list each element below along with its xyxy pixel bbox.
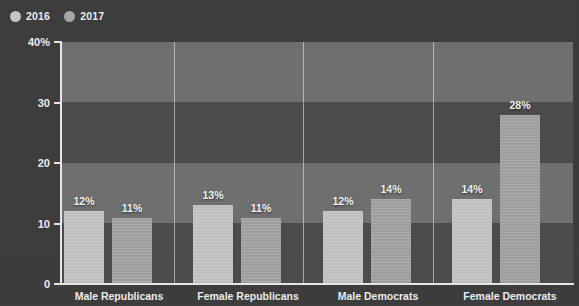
bar-value-label: 13% xyxy=(202,189,223,201)
bar-value-label: 12% xyxy=(73,195,94,207)
bar-2017-female-republicans[interactable]: 11% xyxy=(241,218,281,285)
legend-item-2016[interactable]: 2016 xyxy=(10,10,50,22)
category-separator-1 xyxy=(174,42,175,284)
x-axis-label-male-democrats: Male Democrats xyxy=(323,290,433,302)
bar-2016-female-republicans[interactable]: 13% xyxy=(193,205,233,284)
legend-swatch-2017-icon xyxy=(64,11,75,22)
bar-2017-male-democrats[interactable]: 14% xyxy=(371,199,411,284)
y-tick-30 xyxy=(54,102,60,104)
y-tick-40 xyxy=(54,41,60,43)
y-tick-10 xyxy=(54,223,60,225)
plot-area: 12% 11% 13% 11% 12% 14% 14% 28% xyxy=(61,42,573,284)
legend-swatch-2016-icon xyxy=(10,11,21,22)
y-axis-line xyxy=(60,41,62,285)
category-separator-3 xyxy=(433,42,434,284)
legend-label-2016: 2016 xyxy=(26,10,50,22)
bar-value-label: 11% xyxy=(251,202,271,214)
bar-2016-male-republicans[interactable]: 12% xyxy=(64,211,104,284)
y-axis-label-30: 30 xyxy=(14,97,50,109)
bar-value-label: 28% xyxy=(509,99,530,111)
bar-2017-female-democrats[interactable]: 28% xyxy=(500,115,540,284)
band-30-20 xyxy=(61,102,573,163)
bar-value-label: 11% xyxy=(122,202,142,214)
bar-2016-female-democrats[interactable]: 14% xyxy=(452,199,492,284)
y-axis-label-0: 0 xyxy=(14,278,50,290)
bar-value-label: 14% xyxy=(461,183,482,195)
legend-item-2017[interactable]: 2017 xyxy=(64,10,104,22)
bar-2016-male-democrats[interactable]: 12% xyxy=(323,211,363,284)
x-axis-line xyxy=(60,283,574,285)
legend-label-2017: 2017 xyxy=(80,10,104,22)
bar-chart: 2016 2017 12% 11% 13% 11% xyxy=(0,0,579,306)
band-40-30 xyxy=(61,42,573,102)
x-axis-label-female-republicans: Female Republicans xyxy=(193,290,303,302)
y-axis-label-10: 10 xyxy=(14,218,50,230)
category-separator-2 xyxy=(303,42,304,284)
bar-value-label: 12% xyxy=(332,195,353,207)
y-tick-20 xyxy=(54,162,60,164)
y-axis-label-20: 20 xyxy=(14,157,50,169)
y-axis-label-40: 40% xyxy=(14,36,50,48)
x-axis-label-male-republicans: Male Republicans xyxy=(64,290,174,302)
bar-value-label: 14% xyxy=(380,183,401,195)
band-20-10 xyxy=(61,163,573,223)
chart-legend: 2016 2017 xyxy=(10,6,104,26)
bar-2017-male-republicans[interactable]: 11% xyxy=(112,218,152,285)
x-axis-label-female-democrats: Female Democrats xyxy=(452,290,568,302)
